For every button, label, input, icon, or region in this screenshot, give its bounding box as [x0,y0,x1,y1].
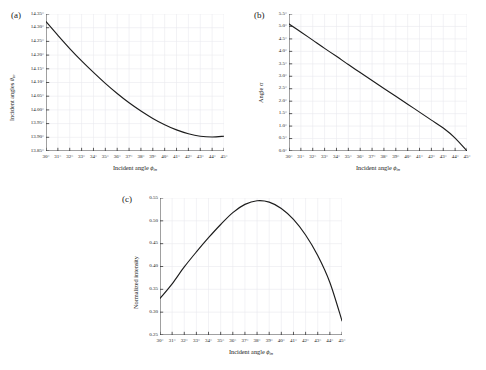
panel-c: (c) Normalized intensity Incident angle … [118,185,373,370]
panel-b-plot-area [289,14,467,151]
panel-c-x-tick: 45° [333,338,351,343]
panel-b-chart-svg [289,14,467,151]
panel-a-y-tick: 14.20° [14,52,44,57]
panel-c-y-tick: 0.25 [138,332,158,337]
panel-b-y-tick: 3.0° [263,73,287,78]
panel-b-y-tick: 3.5° [263,61,287,66]
panel-a-y-tick: 14.30° [14,24,44,29]
panel-b-y-tick: 0.0° [263,148,287,153]
panel-b: (b) Angle α Incident angle ϕin 0.0°0.5°1… [243,0,486,185]
panel-a-chart-svg [46,14,224,151]
panel-b-data-curve [289,24,467,151]
panel-a-y-tick: 14.05° [14,93,44,98]
panel-a-y-tick: 14.10° [14,79,44,84]
panel-b-y-tick: 0.5° [263,135,287,140]
panel-b-y-tick: 1.5° [263,110,287,115]
panel-a-data-curve [46,22,224,137]
panel-c-y-tick: 0.30 [138,309,158,314]
panel-c-y-tick: 0.45 [138,240,158,245]
panel-c-data-curve [160,201,342,321]
panel-c-y-tick: 0.50 [138,218,158,223]
panel-c-label: (c) [122,194,132,204]
panel-b-y-tick: 2.0° [263,98,287,103]
panel-c-y-tick: 0.40 [138,263,158,268]
panel-a-y-tick: 14.25° [14,38,44,43]
panel-a-y-tick: 13.95° [14,120,44,125]
panel-c-y-tick: 0.55 [138,195,158,200]
panel-c-plot-area [160,198,342,335]
panel-a-y-tick: 14.35° [14,11,44,16]
panel-a-y-tick: 13.90° [14,134,44,139]
panel-a-y-tick: 14.15° [14,66,44,71]
panel-b-y-tick: 2.5° [263,85,287,90]
panel-b-y-tick: 5.5° [263,11,287,16]
figure-container: (a) Incident angles θin Incident angle ϕ… [0,0,486,370]
panel-b-y-tick: 4.0° [263,48,287,53]
panel-b-x-tick: 45° [458,154,476,159]
panel-b-x-axis-label: Incident angle ϕin [289,164,467,172]
panel-c-y-tick: 0.35 [138,286,158,291]
panel-b-y-tick: 1.0° [263,123,287,128]
panel-b-y-tick: 4.5° [263,36,287,41]
panel-a-x-axis-label: Incident angle ϕin [46,164,224,172]
panel-a-plot-area [46,14,224,151]
panel-a-y-tick: 13.85° [14,148,44,153]
panel-c-chart-svg [160,198,342,335]
panel-a: (a) Incident angles θin Incident angle ϕ… [0,0,243,185]
panel-a-x-tick: 45° [215,154,233,159]
panel-b-y-tick: 5.0° [263,23,287,28]
panel-c-x-axis-label: Incident angle ϕin [160,348,342,356]
panel-a-y-tick: 14.00° [14,107,44,112]
